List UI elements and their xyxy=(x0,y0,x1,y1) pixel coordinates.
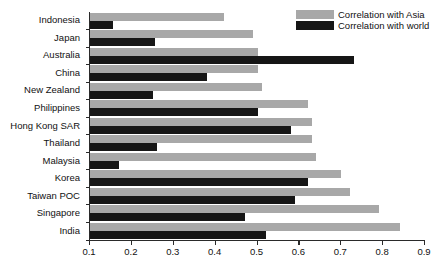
bar-asia xyxy=(90,118,312,126)
x-axis-tick-label: 0.8 xyxy=(367,246,397,257)
y-axis-label: Malaysia xyxy=(43,156,81,166)
bar-asia xyxy=(90,13,224,21)
bar-world xyxy=(90,213,245,221)
bar-group xyxy=(90,65,425,83)
bar-world xyxy=(90,56,354,64)
bar-asia xyxy=(90,100,308,108)
bar-asia xyxy=(90,135,312,143)
bar-group xyxy=(90,188,425,206)
y-axis-label: Taiwan POC xyxy=(27,191,80,201)
bar-asia xyxy=(90,205,379,213)
y-axis-label: China xyxy=(55,68,80,78)
y-axis-label: Hong Kong SAR xyxy=(10,121,80,131)
bar-group xyxy=(90,223,425,241)
bar-group xyxy=(90,30,425,48)
x-axis-tick-label: 0.9 xyxy=(409,246,439,257)
x-axis-tick-label: 0.2 xyxy=(116,246,146,257)
plot-area xyxy=(89,12,425,240)
x-axis-tick xyxy=(89,240,90,245)
bar-world xyxy=(90,143,157,151)
legend-label-asia: Correlation with Asia xyxy=(338,9,425,20)
x-axis-tick xyxy=(215,240,216,245)
bar-asia xyxy=(90,170,341,178)
bar-world xyxy=(90,73,207,81)
legend-swatch-world-icon xyxy=(296,21,334,30)
legend-item-world: Correlation with world xyxy=(296,20,436,31)
bar-world xyxy=(90,231,266,239)
bar-asia xyxy=(90,153,316,161)
x-axis-tick xyxy=(257,240,258,245)
y-axis-label: Indonesia xyxy=(39,15,80,25)
bar-asia xyxy=(90,48,258,56)
bar-group xyxy=(90,48,425,66)
bar-group xyxy=(90,83,425,101)
legend-item-asia: Correlation with Asia xyxy=(296,9,436,20)
x-axis-tick xyxy=(173,240,174,245)
x-axis-tick xyxy=(424,240,425,245)
bar-world xyxy=(90,161,119,169)
y-axis-label: Korea xyxy=(55,173,80,183)
bar-group xyxy=(90,135,425,153)
bar-world xyxy=(90,38,155,46)
bar-world xyxy=(90,126,291,134)
bar-asia xyxy=(90,83,262,91)
legend-label-world: Correlation with world xyxy=(338,20,429,31)
x-axis-tick xyxy=(298,240,299,245)
y-axis-label: India xyxy=(59,226,80,236)
x-axis-tick xyxy=(382,240,383,245)
bar-group xyxy=(90,118,425,136)
bar-group xyxy=(90,170,425,188)
x-axis-tick xyxy=(340,240,341,245)
bar-asia xyxy=(90,30,253,38)
legend-swatch-asia-icon xyxy=(296,10,334,19)
x-axis-tick-label: 0.4 xyxy=(200,246,230,257)
bar-asia xyxy=(90,223,400,231)
bar-world xyxy=(90,108,258,116)
y-axis-category-labels: IndonesiaJapanAustraliaChinaNew ZealandP… xyxy=(0,12,84,240)
x-axis-tick-label: 0.1 xyxy=(74,246,104,257)
y-axis-label: Japan xyxy=(54,33,80,43)
x-axis-tick-label: 0.7 xyxy=(325,246,355,257)
bar-chart: IndonesiaJapanAustraliaChinaNew ZealandP… xyxy=(0,0,447,266)
bar-asia xyxy=(90,65,258,73)
bar-world xyxy=(90,91,153,99)
y-axis-label: New Zealand xyxy=(24,85,80,95)
bar-group xyxy=(90,153,425,171)
y-axis-label: Singapore xyxy=(37,208,80,218)
bar-world xyxy=(90,178,308,186)
y-axis-label: Thailand xyxy=(44,138,80,148)
x-axis-tick-label: 0.6 xyxy=(283,246,313,257)
bar-world xyxy=(90,196,295,204)
bar-world xyxy=(90,21,113,29)
y-axis-label: Philippines xyxy=(34,103,80,113)
x-axis-tick-label: 0.3 xyxy=(158,246,188,257)
chart-legend: Correlation with Asia Correlation with w… xyxy=(296,9,436,31)
x-axis-tick xyxy=(131,240,132,245)
x-axis-tick-label: 0.5 xyxy=(242,246,272,257)
bar-asia xyxy=(90,188,350,196)
y-axis-label: Australia xyxy=(43,50,80,60)
bar-group xyxy=(90,100,425,118)
bar-group xyxy=(90,205,425,223)
